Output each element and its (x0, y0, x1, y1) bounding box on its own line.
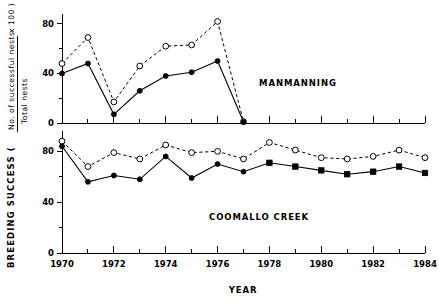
panel0-series-0-marker-open-circle-1974 (163, 43, 169, 49)
panel1-x-tick-labels: 19701972197419761978198019821984 (50, 259, 437, 269)
panel0-series-0-marker-open-circle-1975 (189, 42, 195, 48)
panel1-series-0-marker-open-circle-1972 (111, 150, 117, 156)
panel1-series-1-marker-filled-square-1984 (422, 170, 427, 175)
panel0-series-1-marker-filled-circle-1971 (85, 61, 90, 66)
panel1-y-tick-labels: 04080 (42, 146, 54, 258)
panel-coomallo-creek: 04080 19701972197419761978198019821984 C… (42, 131, 437, 269)
panel-manmanning: 04080 MANMANNING (42, 14, 425, 128)
panel0-series-1-marker-filled-circle-1973 (137, 88, 142, 93)
y-axis-label-numerator: No. of successful nests (7, 32, 16, 130)
panel0-y-tick-80: 80 (42, 19, 54, 29)
panel1-series-0-marker-open-circle-1980 (318, 155, 324, 161)
panel0-series-1-marker-filled-circle-1972 (111, 112, 116, 117)
panel1-series-0-marker-open-circle-1977 (241, 156, 247, 162)
panel0-series-1-marker-filled-circle-1976 (215, 59, 220, 64)
breeding-success-chart: BREEDING SUCCESS ( No. of successful nes… (0, 0, 439, 307)
y-axis-label-group: BREEDING SUCCESS ( No. of successful nes… (6, 3, 29, 268)
panel1-series-1-marker-filled-circle-1977 (241, 169, 246, 174)
panel1-series-1-marker-filled-circle-1971 (85, 179, 90, 184)
panel1-series-0-marker-open-circle-1973 (137, 156, 143, 162)
panel1-y-tick-40: 40 (42, 197, 54, 207)
panel0-series-1-marker-filled-circle-1977 (241, 119, 246, 124)
panel1-series-1-marker-filled-square-1983 (396, 164, 401, 169)
panel0-series-markers (59, 19, 246, 125)
panel1-series-0-marker-open-circle-1984 (422, 155, 428, 161)
panel0-series-1-marker-filled-circle-1970 (60, 71, 65, 76)
panel1-series-1-marker-filled-square-1979 (293, 164, 298, 169)
x-axis-title: YEAR (228, 285, 258, 295)
panel1-series-0-marker-open-circle-1981 (344, 156, 350, 162)
panel1-y-tick-80: 80 (42, 146, 54, 156)
panel1-series-0-marker-open-circle-1971 (85, 164, 91, 170)
panel0-series-0-marker-open-circle-1972 (111, 99, 117, 105)
y-axis-label-suffix: x 100 ) (7, 3, 16, 33)
x-tick-1970: 1970 (50, 259, 74, 269)
panel1-x-axis (62, 246, 425, 253)
panel1-series-1-marker-filled-circle-1975 (189, 176, 194, 181)
panel0-y-tick-40: 40 (42, 68, 54, 78)
panel1-series-1-marker-filled-circle-1976 (215, 162, 220, 167)
panel1-series-1-marker-filled-square-1980 (319, 168, 324, 173)
panel1-series-1-marker-filled-circle-1970 (60, 144, 65, 149)
x-tick-1982: 1982 (361, 259, 385, 269)
panel1-series-1-marker-filled-square-1981 (345, 172, 350, 177)
panel1-series-1-marker-filled-circle-1972 (111, 173, 116, 178)
panel0-series-1-line (62, 61, 244, 122)
panel-label-manmanning: MANMANNING (259, 78, 337, 88)
panel0-series-0-marker-open-circle-1970 (59, 61, 65, 67)
panel0-series-0-marker-open-circle-1971 (85, 35, 91, 41)
panel1-series-0-marker-open-circle-1983 (396, 147, 402, 153)
x-tick-1980: 1980 (309, 259, 333, 269)
panel0-series-0-marker-open-circle-1973 (137, 63, 143, 69)
panel1-series-1-marker-filled-square-1982 (370, 169, 375, 174)
panel1-series-markers (59, 138, 428, 184)
panel1-series-0-marker-open-circle-1970 (59, 138, 65, 144)
panel1-series-0-marker-open-circle-1982 (370, 154, 376, 160)
panel1-y-axis (57, 131, 62, 253)
chart-root: BREEDING SUCCESS ( No. of successful nes… (0, 0, 439, 307)
panel1-series-0-marker-open-circle-1975 (189, 150, 195, 156)
panel0-series-0-marker-open-circle-1976 (215, 19, 221, 25)
x-tick-1974: 1974 (154, 259, 178, 269)
panel0-y-axis (57, 14, 62, 123)
panel1-series-1-marker-filled-circle-1973 (137, 177, 142, 182)
x-tick-1972: 1972 (102, 259, 126, 269)
panel1-series-1-marker-filled-square-1978 (267, 160, 272, 165)
x-tick-1984: 1984 (413, 259, 437, 269)
panel0-series-1-marker-filled-circle-1975 (189, 70, 194, 75)
panel0-series-1-marker-filled-circle-1974 (163, 73, 168, 78)
panel1-series-0-marker-open-circle-1974 (163, 142, 169, 148)
x-tick-1976: 1976 (206, 259, 230, 269)
x-tick-1978: 1978 (258, 259, 282, 269)
panel0-y-tick-0: 0 (48, 118, 54, 128)
y-axis-label-prefix: BREEDING SUCCESS ( (6, 146, 16, 268)
panel1-series-0-marker-open-circle-1979 (292, 147, 298, 153)
panel1-series-0-marker-open-circle-1978 (267, 140, 273, 146)
panel-label-coomallo-creek: COOMALLO CREEK (209, 212, 309, 222)
panel1-y-tick-0: 0 (48, 248, 54, 258)
panel1-series-1-marker-filled-circle-1974 (163, 154, 168, 159)
panel0-y-tick-labels: 04080 (42, 19, 54, 128)
panel1-series-0-marker-open-circle-1976 (215, 148, 221, 154)
y-axis-label-denominator: Total nests (20, 78, 29, 125)
